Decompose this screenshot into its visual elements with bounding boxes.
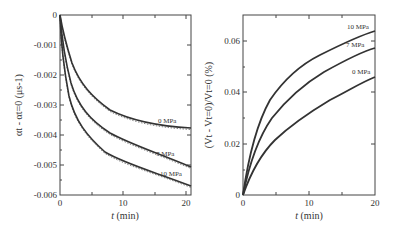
x-tick: 20 xyxy=(371,198,381,208)
y-tick: -0.005 xyxy=(34,160,58,170)
series-label-0mpa: 0 MPa xyxy=(158,117,177,125)
x-axis-label: t (min) xyxy=(295,210,323,222)
x-axis-label: t (min) xyxy=(111,210,139,222)
y-tick: -0.006 xyxy=(34,190,58,200)
x-tick: 10 xyxy=(305,198,315,208)
right-series xyxy=(243,31,375,195)
y-tick: 0 xyxy=(236,190,241,200)
y-tick: -0.002 xyxy=(34,70,57,80)
y-axis-label: αt - αt=0 (μs-1) xyxy=(13,74,25,136)
y-tick: 0.02 xyxy=(224,139,240,149)
y-axis-label: (Vt - Vt=0)/Vt=0 (%) xyxy=(203,62,215,148)
y-tick: -0.001 xyxy=(34,40,57,50)
series-label-0mpa: 0 MPa xyxy=(352,68,371,76)
x-tick: 10 xyxy=(119,198,129,208)
right-plot: 0 0.02 0.04 0.06 0 10 20 t (min) (Vt - V… xyxy=(203,15,380,222)
y-tick: -0.004 xyxy=(34,130,58,140)
series-label-10mpa: 10 MPa xyxy=(160,170,183,178)
y-tick: 0.06 xyxy=(224,36,240,46)
x-tick: 0 xyxy=(58,198,63,208)
x-tick: 0 xyxy=(241,198,246,208)
series-label-10mpa: 10 MPa xyxy=(347,23,370,31)
left-series xyxy=(60,15,191,186)
y-tick: 0.04 xyxy=(224,87,240,97)
series-label-7mpa: 7 MPa xyxy=(156,150,175,158)
x-tick: 20 xyxy=(182,198,192,208)
figure: 0 -0.001 -0.002 -0.003 -0.004 -0.005 -0.… xyxy=(0,0,394,231)
y-tick: 0 xyxy=(53,10,58,20)
series-label-7mpa: 7 MPa xyxy=(346,41,365,49)
left-plot: 0 -0.001 -0.002 -0.003 -0.004 -0.005 -0.… xyxy=(13,10,191,222)
y-tick: -0.003 xyxy=(34,100,58,110)
